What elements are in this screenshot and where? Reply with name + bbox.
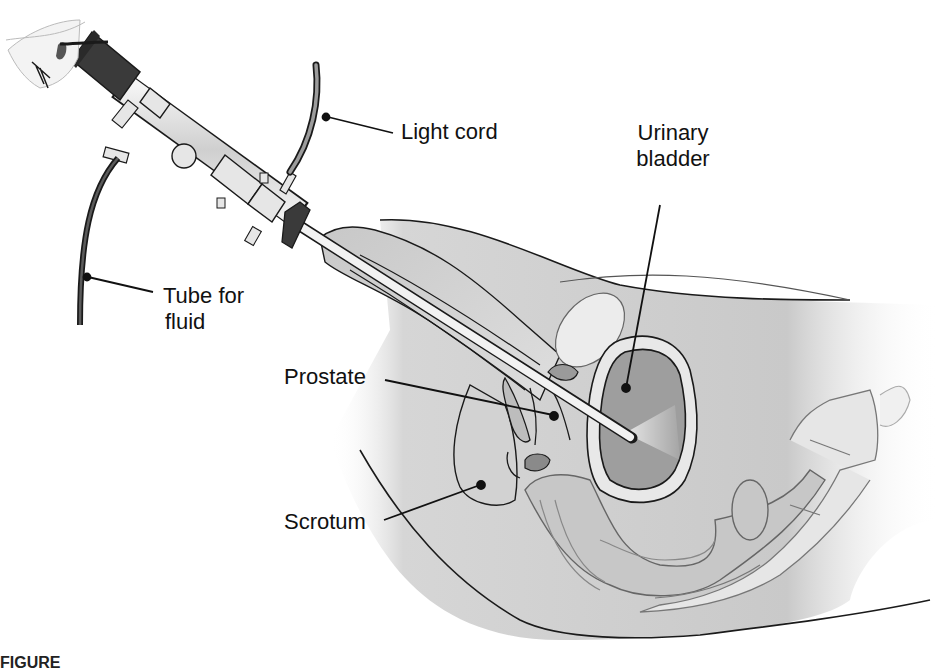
label-light-cord: Light cord — [401, 119, 498, 145]
label-urinary-bladder-line1: Urinary — [623, 120, 723, 146]
label-tube-for-fluid: Tube for fluid — [163, 283, 244, 335]
label-prostate: Prostate — [284, 364, 366, 390]
label-tube-for-fluid-line1: Tube for — [163, 283, 244, 309]
label-tube-for-fluid-line2: fluid — [163, 309, 244, 335]
label-scrotum: Scrotum — [284, 509, 366, 535]
label-urinary-bladder-line2: bladder — [623, 146, 723, 172]
figure-caption: FIGURE — [0, 654, 60, 672]
label-urinary-bladder: Urinary bladder — [623, 120, 723, 172]
